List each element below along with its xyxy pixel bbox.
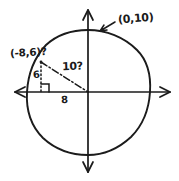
label-point-0-10: (0,10): [118, 12, 154, 25]
label-vertical-leg: 6: [33, 70, 41, 81]
sketch-drawing: [0, 0, 179, 181]
right-angle-marker: [41, 84, 49, 92]
sketch-diagram-canvas: (0,10) (-8,6)? 10? 6 8: [0, 0, 179, 181]
label-horizontal-leg: 8: [61, 95, 68, 105]
callout-arrow-icon: [100, 22, 115, 31]
label-radius-length: 10?: [62, 61, 83, 73]
label-point-neg8-6: (-8,6)?: [10, 46, 47, 58]
point-marker-dot: [40, 61, 43, 64]
